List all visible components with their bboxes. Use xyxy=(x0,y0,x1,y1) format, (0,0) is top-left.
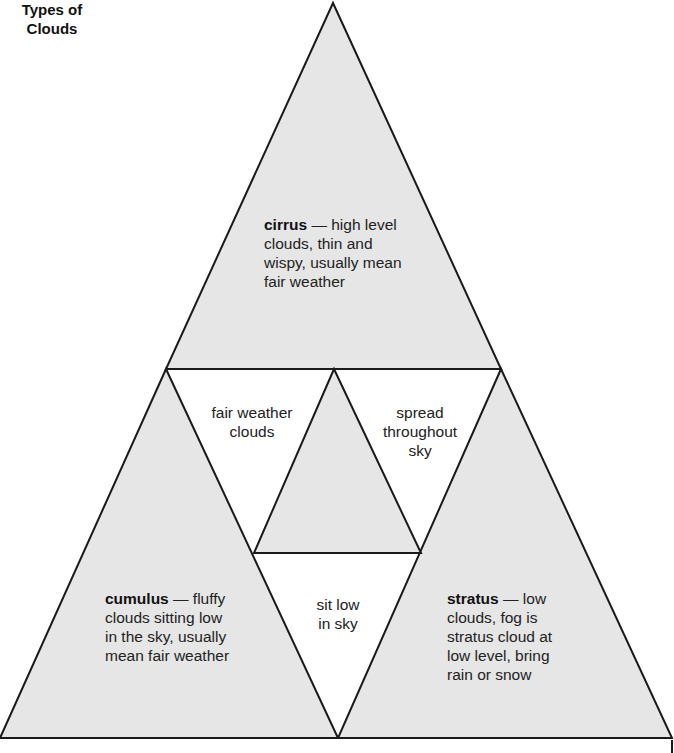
center-title-triangle xyxy=(254,369,421,553)
connector-cumulus-stratus: sit low in sky xyxy=(288,595,388,633)
cirrus-description: cirrus — high level clouds, thin and wis… xyxy=(264,215,464,291)
stratus-description: stratus — low clouds, fog is stratus clo… xyxy=(447,589,607,684)
cumulus-description: cumulus — fluffy clouds sitting low in t… xyxy=(105,589,275,665)
stratus-name: stratus xyxy=(447,590,499,607)
connector-cirrus-cumulus: fair weather clouds xyxy=(182,403,322,441)
cirrus-triangle xyxy=(166,3,501,369)
cumulus-name: cumulus xyxy=(105,590,169,607)
cirrus-name: cirrus xyxy=(264,216,307,233)
connector-cirrus-stratus: spread throughout sky xyxy=(355,403,485,460)
